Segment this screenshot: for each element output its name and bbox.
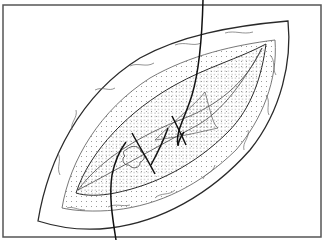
surgical-illustration [0,0,325,245]
illustration-stage [0,0,325,245]
